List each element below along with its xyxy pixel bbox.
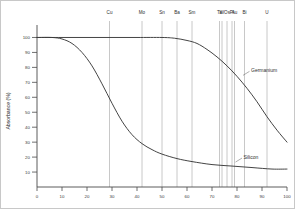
x-tick-label: 0 (36, 194, 39, 199)
x-tick-label: 20 (85, 194, 90, 199)
element-marker-rules (110, 21, 268, 187)
y-tick-label: 70 (25, 80, 30, 85)
series-label-leader (236, 158, 243, 162)
x-tick-label: 60 (185, 194, 190, 199)
x-tick-label: 30 (110, 194, 115, 199)
y-axis-ticks (32, 37, 37, 172)
x-tick-label: 40 (135, 194, 140, 199)
x-axis-tick-labels: 0102030405060708090100 (36, 194, 291, 199)
y-tick-label: 50 (25, 110, 30, 115)
x-axis-ticks (37, 187, 287, 191)
element-marker-label: U (265, 10, 268, 15)
x-tick-label: 10 (60, 194, 65, 199)
x-tick-label: 70 (210, 194, 215, 199)
chart-canvas: CuMoSnBaSmTaWOsPtAuBiU 10203040506070809… (1, 1, 295, 209)
element-marker-label: Au (232, 10, 238, 15)
element-marker-label: Cu (107, 10, 113, 15)
x-tick-label: 90 (260, 194, 265, 199)
element-marker-label: Sm (189, 10, 196, 15)
absorbance-chart-figure: CuMoSnBaSmTaWOsPtAuBiU 10203040506070809… (0, 0, 295, 209)
y-axis-tick-labels: 102030405060708090100 (23, 35, 31, 175)
series-label: Silicon (244, 154, 259, 160)
y-tick-label: 30 (25, 140, 30, 145)
y-tick-label: 20 (25, 155, 30, 160)
y-tick-label: 90 (25, 50, 30, 55)
x-tick-label: 80 (235, 194, 240, 199)
x-tick-label: 50 (160, 194, 165, 199)
y-tick-label: 60 (25, 95, 30, 100)
element-marker-label: Ba (174, 10, 180, 15)
y-tick-label: 10 (25, 170, 30, 175)
series-label-leader (243, 71, 250, 75)
element-marker-labels: CuMoSnBaSmTaWOsPtAuBiU (107, 10, 269, 15)
y-tick-label: 100 (23, 35, 31, 40)
x-tick-label: 100 (283, 194, 291, 199)
element-marker-label: Sn (159, 10, 165, 15)
element-marker-label: Bi (242, 10, 246, 15)
series-label: Germanium (251, 67, 277, 73)
element-marker-label: Mo (139, 10, 146, 15)
y-tick-label: 80 (25, 65, 30, 70)
y-axis-title: Absorbance (%) (5, 92, 11, 129)
y-tick-label: 40 (25, 125, 30, 130)
